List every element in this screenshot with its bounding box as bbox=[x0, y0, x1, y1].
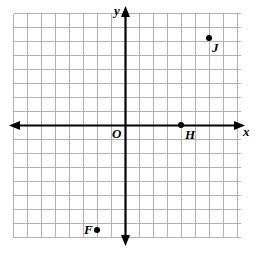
origin-label: O bbox=[112, 127, 121, 140]
coordinate-plane-figure: O x y F H J bbox=[0, 0, 257, 253]
y-axis-up-arrow bbox=[121, 6, 130, 17]
y-axis-down-arrow bbox=[121, 235, 130, 246]
point-f-dot bbox=[94, 227, 100, 233]
x-axis-left-arrow bbox=[9, 121, 20, 130]
point-f-label: F bbox=[84, 223, 93, 236]
y-axis-label: y bbox=[114, 4, 120, 17]
axes bbox=[0, 0, 257, 253]
point-h-label: H bbox=[185, 128, 195, 141]
point-j-label: J bbox=[212, 41, 219, 54]
x-axis-label: x bbox=[243, 125, 250, 138]
point-h-dot bbox=[178, 122, 184, 128]
